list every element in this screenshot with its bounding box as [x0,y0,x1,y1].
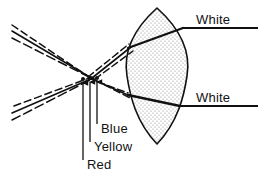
label-white-top: White [196,12,230,27]
incoming-upper-rays [12,25,95,80]
ray-diagram-canvas: White White Blue Yellow Red [0,0,261,182]
upper-ray-dashed-inner [12,38,95,80]
focus-to-lens-dashed-lower-b [88,78,128,93]
focus-marker-blue [95,76,99,80]
upper-ray-solid [12,31,93,79]
focus-to-lens-solid-upper [92,47,131,78]
label-yellow: Yellow [94,139,133,154]
focus-marker-red [81,77,85,81]
optics-figure: White White Blue Yellow Red [0,0,261,182]
incoming-lower-rays [12,77,94,120]
label-blue: Blue [101,121,128,136]
label-red: Red [87,157,111,172]
lower-ray-dashed-inner [14,77,92,106]
focus-to-lens-dashed-upper-b [88,44,129,77]
focus-marker-yellow [88,76,92,80]
lower-ray-solid [12,78,93,113]
diverging-lower-rays [88,78,132,99]
label-white-bottom: White [196,90,230,105]
lower-ray-dashed-outer [12,78,94,120]
